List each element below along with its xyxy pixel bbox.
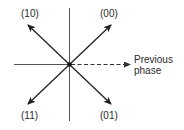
phasor-arrow-01	[70, 65, 112, 105]
phasor-label-11: (11)	[21, 110, 38, 121]
phasor-label-10: (10)	[21, 8, 39, 19]
phasor-label-01: (01)	[100, 110, 118, 121]
previous-phase-label-line2: phase	[134, 65, 173, 76]
previous-phase-label: Previous phase	[134, 54, 173, 76]
phasor-arrow-11	[28, 65, 70, 105]
previous-phase-label-line1: Previous	[134, 54, 173, 65]
phase-diagram: (10) (00) (11) (01) Previous phase	[0, 0, 184, 130]
phasor-arrow-00	[70, 25, 112, 65]
phasor-label-00: (00)	[100, 8, 118, 19]
phasor-arrow-10	[28, 25, 70, 65]
origin-point	[67, 62, 71, 66]
